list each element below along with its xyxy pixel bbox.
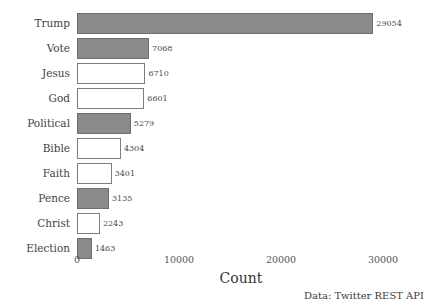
x-tick-30000: 30000 bbox=[368, 254, 398, 265]
category-label-faith: Faith bbox=[43, 162, 70, 184]
bar-row: Pence3135 bbox=[77, 187, 383, 212]
bar-row: Trump29054 bbox=[77, 12, 383, 37]
x-axis-title-text: Count bbox=[220, 270, 263, 286]
bar-row: Vote7068 bbox=[77, 37, 383, 62]
bar-row: Bible4304 bbox=[77, 137, 383, 162]
category-label-jesus: Jesus bbox=[42, 62, 70, 84]
bar-faith[interactable] bbox=[77, 163, 112, 184]
bar-chart: Trump29054Vote7068Jesus6710God6601Politi… bbox=[0, 0, 430, 307]
bar-value-label-christ: 2243 bbox=[100, 213, 123, 234]
bar-trump[interactable] bbox=[77, 13, 373, 34]
bar-god[interactable] bbox=[77, 88, 144, 109]
bar-value-label-vote: 7068 bbox=[149, 38, 172, 59]
bar-value-label-political: 5279 bbox=[131, 113, 154, 134]
bar-value-label-faith: 3401 bbox=[112, 163, 135, 184]
category-label-christ: Christ bbox=[37, 212, 70, 234]
bar-row: Jesus6710 bbox=[77, 62, 383, 87]
bar-value-label-bible: 4304 bbox=[121, 138, 144, 159]
x-tick-10000: 10000 bbox=[164, 254, 194, 265]
bar-row: Election1463 bbox=[77, 237, 383, 262]
bar-value-label-god: 6601 bbox=[144, 88, 167, 109]
bar-row: Faith3401 bbox=[77, 162, 383, 187]
data-source-note: Data: Twitter REST API bbox=[304, 290, 424, 301]
x-tick-0: 0 bbox=[74, 254, 80, 265]
bar-value-label-jesus: 6710 bbox=[145, 63, 168, 84]
category-label-pence: Pence bbox=[38, 187, 70, 209]
category-label-election: Election bbox=[26, 237, 70, 259]
category-label-god: God bbox=[49, 87, 70, 109]
bar-christ[interactable] bbox=[77, 213, 100, 234]
category-label-trump: Trump bbox=[35, 12, 70, 34]
bar-political[interactable] bbox=[77, 113, 131, 134]
bar-row: God6601 bbox=[77, 87, 383, 112]
category-label-political: Political bbox=[27, 112, 70, 134]
category-label-vote: Vote bbox=[47, 37, 70, 59]
bar-value-label-trump: 29054 bbox=[373, 13, 401, 34]
category-label-bible: Bible bbox=[43, 137, 70, 159]
bar-row: Political5279 bbox=[77, 112, 383, 137]
bar-value-label-pence: 3135 bbox=[109, 188, 132, 209]
x-tick-20000: 20000 bbox=[266, 254, 296, 265]
plot-area: Trump29054Vote7068Jesus6710God6601Politi… bbox=[77, 12, 383, 262]
bar-value-label-election: 1463 bbox=[92, 238, 115, 259]
bar-bible[interactable] bbox=[77, 138, 121, 159]
bar-vote[interactable] bbox=[77, 38, 149, 59]
x-axis-title: Count bbox=[0, 270, 430, 286]
bar-row: Christ2243 bbox=[77, 212, 383, 237]
bar-pence[interactable] bbox=[77, 188, 109, 209]
bar-jesus[interactable] bbox=[77, 63, 145, 84]
